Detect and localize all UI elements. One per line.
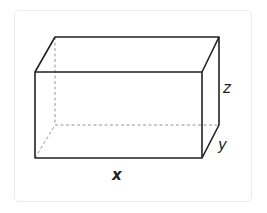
label-y: y xyxy=(217,136,228,154)
label-x: x xyxy=(111,166,123,184)
front-face xyxy=(35,72,202,158)
visible-edges xyxy=(35,37,219,158)
label-z: z xyxy=(222,79,232,97)
hidden-edge-bottom-left-diagonal xyxy=(35,125,55,158)
prism-diagram: z y x xyxy=(0,0,267,213)
top-face-edges xyxy=(35,37,219,72)
hidden-edges xyxy=(35,37,219,158)
